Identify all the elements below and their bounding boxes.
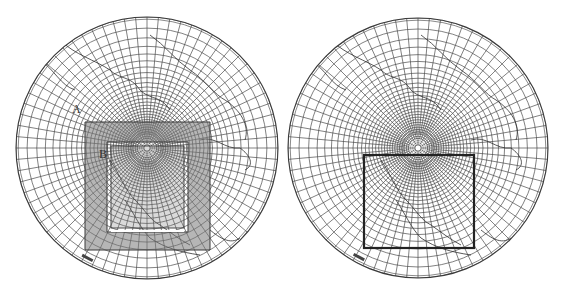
north-pole-marker: [415, 145, 421, 151]
domain-label-b: B: [99, 147, 107, 161]
right-map-panel: [288, 18, 548, 278]
polar-maps-canvas: AB: [0, 0, 563, 295]
inner-domain-box: [111, 146, 184, 228]
left-map-panel: AB: [16, 17, 278, 279]
map-figure: AB: [0, 0, 563, 295]
domain-label-a: A: [72, 102, 81, 116]
